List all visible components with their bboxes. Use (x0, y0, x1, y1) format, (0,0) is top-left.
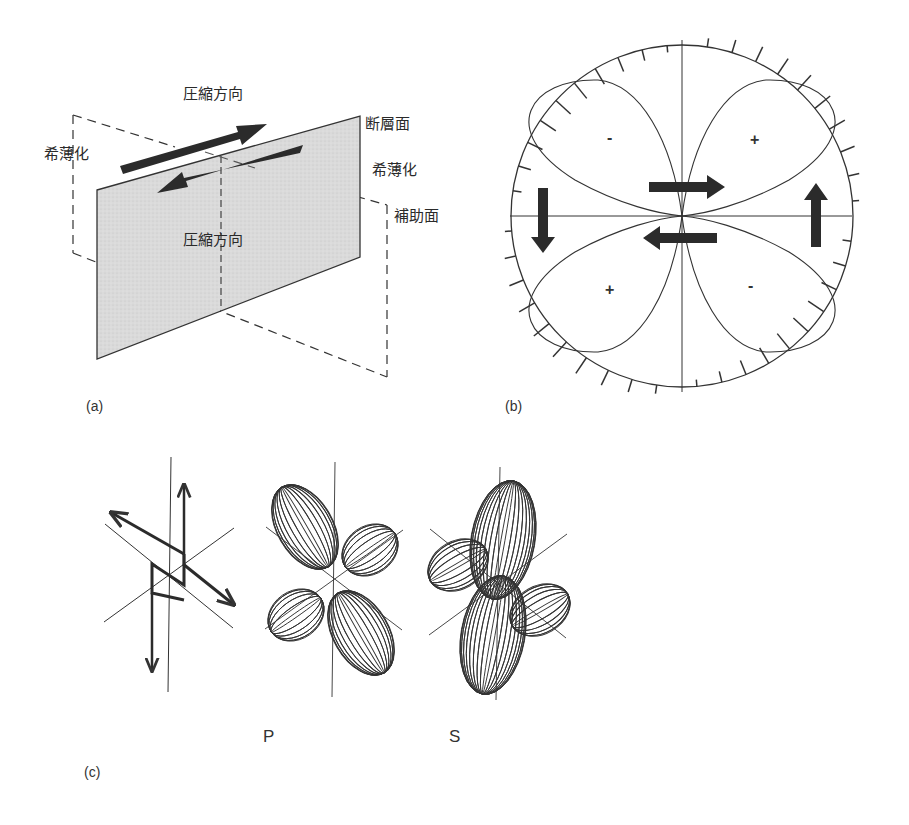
sign-lower-left: + (605, 282, 614, 298)
label-fault-plane: 断層面 (365, 117, 410, 132)
figure-canvas (0, 0, 909, 825)
panel-c-double-couple (104, 457, 234, 692)
panel-c-label: (c) (84, 764, 100, 780)
panel-b-focal-mechanism (505, 38, 859, 393)
side-arrow-up (804, 183, 828, 247)
p-wave-radiation-pattern (258, 462, 409, 697)
couple-arrow-right (649, 175, 725, 199)
label-compression-top: 圧縮方向 (183, 87, 243, 102)
label-auxiliary-plane: 補助面 (394, 209, 439, 224)
double-couple-arrows (112, 485, 233, 670)
label-compression-mid: 圧縮方向 (183, 233, 243, 248)
panel-a-label: (a) (86, 398, 103, 414)
p-wave-label: P (263, 727, 274, 747)
side-arrow-down (531, 188, 555, 253)
panel-b-label: (b) (505, 398, 522, 414)
s-wave-label: S (449, 727, 460, 747)
sign-upper-right: + (750, 132, 759, 148)
sign-lower-right: - (748, 278, 753, 294)
s-wave-radiation-pattern (418, 467, 579, 700)
sign-upper-left: - (607, 130, 612, 146)
label-dilatation-right: 希薄化 (372, 163, 417, 178)
label-dilatation-left: 希薄化 (44, 147, 89, 162)
